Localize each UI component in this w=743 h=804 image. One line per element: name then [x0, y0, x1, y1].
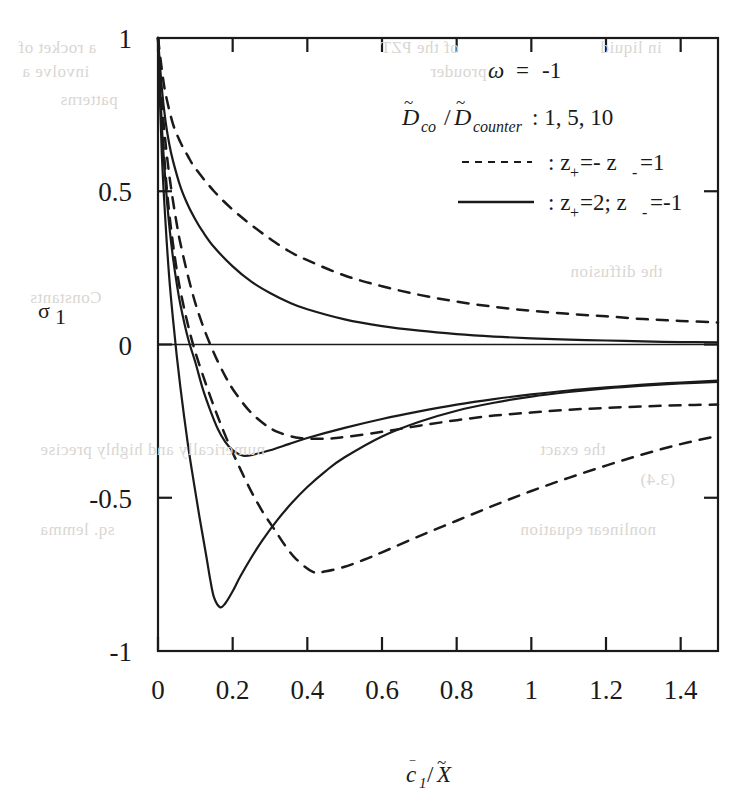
- y-tick-label: 1: [119, 24, 133, 54]
- y-tick-label: 0: [119, 331, 133, 361]
- y-axis-tick-labels: 10.50-0.5-1: [89, 24, 132, 667]
- bleed-through-text: sq. lemma: [40, 520, 114, 540]
- bleed-through-text: involve a: [22, 62, 89, 82]
- bleed-through-text: prouder: [430, 62, 486, 82]
- bleed-through-text: a rocket of: [18, 38, 96, 58]
- sigma1-vs-concentration-chart: 10.50-0.5-1 00.20.40.60.811.21.4 σ 1 ‾ c…: [0, 0, 743, 804]
- curve-solid: [158, 38, 718, 456]
- svg-text:/: /: [427, 762, 434, 787]
- x-tick-label: 0.8: [440, 675, 474, 705]
- curve-dashed: [158, 38, 718, 439]
- curve-dashed: [158, 38, 718, 573]
- figure-container: a rocket ofof the PZTin liquidinvolve ap…: [0, 0, 743, 804]
- legend-ratio-values: : 1, 5, 10: [532, 105, 613, 130]
- legend-dashed-mid: =- z: [580, 150, 617, 175]
- legend-solid-base: : z: [548, 190, 570, 215]
- bleed-through-text: (3.4): [640, 470, 675, 490]
- legend-solid-minus: -: [642, 204, 647, 221]
- x-tick-label: 0: [151, 675, 165, 705]
- svg-text:D: D: [453, 104, 471, 130]
- x-tick-label: 0.4: [290, 675, 324, 705]
- svg-text:-1: -1: [542, 58, 561, 83]
- legend-dashed-base: : z: [548, 150, 570, 175]
- bleed-through-text: in liquid: [600, 38, 662, 58]
- legend-dashed-minus: -: [632, 164, 637, 181]
- x-tick-label: 1.4: [664, 675, 698, 705]
- svg-text:X: X: [436, 762, 452, 787]
- bleed-through-text: Constants: [30, 288, 102, 308]
- bleed-through-text: the diffusion: [570, 262, 663, 282]
- svg-text:=: =: [516, 58, 529, 83]
- x-tick-label: 0.6: [365, 675, 399, 705]
- bleed-through-text: nonlinear equation: [520, 520, 656, 540]
- legend-dashed-plus: +: [570, 164, 579, 181]
- legend-ratio-annotation: ~ D co / ~ D counter : 1, 5, 10: [401, 93, 613, 135]
- svg-text:D: D: [401, 104, 419, 130]
- x-axis-title: ‾ c 1 / ~ X: [406, 753, 452, 791]
- svg-text:counter: counter: [473, 118, 523, 135]
- svg-text:co: co: [421, 118, 436, 135]
- x-tick-label: 1: [525, 675, 539, 705]
- legend-solid-plus: +: [570, 204, 579, 221]
- bleed-through-text: patterns: [60, 90, 118, 110]
- svg-text:/: /: [444, 104, 451, 130]
- legend-omega-annotation: ω = -1: [488, 58, 561, 83]
- svg-text:c: c: [406, 762, 416, 787]
- svg-text:ω: ω: [488, 58, 504, 83]
- bleed-through-text: of the PZT: [380, 38, 459, 58]
- x-tick-label: 0.2: [216, 675, 250, 705]
- legend-entry-dashed: : z + =- z - =1: [462, 150, 664, 181]
- x-tick-label: 1.2: [589, 675, 623, 705]
- y-tick-label: -1: [110, 637, 133, 667]
- legend-dashed-tail: =1: [640, 150, 664, 175]
- legend: ω = -1 ~ D co / ~ D counter : 1, 5, 10 :…: [401, 58, 682, 221]
- legend-solid-mid: =2; z: [580, 190, 627, 215]
- legend-entry-solid: : z + =2; z - =-1: [458, 190, 682, 221]
- bleed-through-text: numerically and highly precise: [40, 440, 265, 460]
- bleed-through-text: the exact: [540, 440, 605, 460]
- x-axis-tick-labels: 00.20.40.60.811.21.4: [151, 675, 698, 705]
- y-tick-label: -0.5: [89, 484, 132, 514]
- legend-solid-tail: =-1: [650, 190, 682, 215]
- svg-text:1: 1: [419, 775, 427, 791]
- curve-solid: [158, 38, 718, 342]
- y-tick-label: 0.5: [98, 177, 132, 207]
